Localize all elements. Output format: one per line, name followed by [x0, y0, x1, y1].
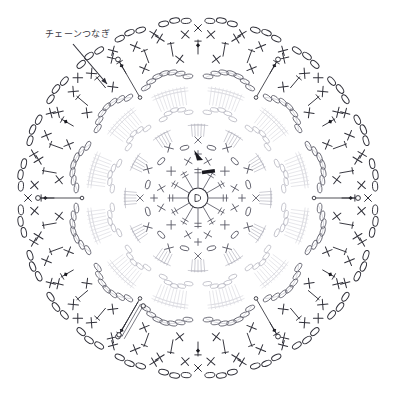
chain-stitch-symbol [206, 144, 216, 151]
chain-stitch-symbol [353, 114, 362, 125]
chain-stitch-symbol [180, 144, 190, 151]
chain-stitch-symbol [17, 216, 23, 227]
single-crochet-symbol [345, 256, 355, 266]
chain-stitch-symbol [244, 124, 254, 133]
chain-stitch-symbol [26, 250, 34, 261]
double-crochet-symbol [124, 195, 136, 201]
chain-stitch-symbol [124, 244, 133, 254]
double-crochet-symbol [308, 291, 320, 302]
double-crochet-symbol [201, 260, 207, 272]
chain-stitch-symbol [372, 181, 378, 191]
chain-stitch-symbol [362, 135, 370, 146]
single-crochet-symbol [143, 165, 152, 174]
chain-stitch-symbol [309, 326, 320, 336]
treble-crochet-symbol [178, 87, 185, 105]
chain-stitch-symbol [359, 261, 368, 272]
double-crochet-symbol [323, 270, 336, 279]
double-crochet-symbol [333, 141, 346, 148]
single-crochet-symbol [184, 231, 192, 239]
treble-crochet-symbol [181, 87, 188, 105]
diagram-canvas: チェーンつなぎ [0, 0, 396, 395]
chain-stitch-symbol [372, 205, 378, 215]
chain-stitch-symbol [163, 279, 173, 286]
chain-stitch-symbol [228, 115, 238, 122]
chain-stitch-symbol [170, 107, 180, 113]
chain-stitch-symbol [359, 124, 368, 135]
treble-crochet-symbol [181, 208, 193, 225]
chain-join-node [80, 196, 84, 200]
chain-stitch-symbol [169, 372, 180, 378]
chain-stitch-symbol [76, 326, 87, 336]
treble-crochet-symbol [195, 209, 201, 228]
treble-crochet-symbol [208, 291, 215, 309]
double-crochet-symbol [141, 49, 148, 62]
single-crochet-symbol [165, 244, 174, 253]
double-crochet-symbol [308, 95, 320, 106]
single-crochet-symbol [64, 247, 73, 256]
single-crochet-symbol [239, 195, 246, 202]
treble-crochet-symbol [208, 181, 225, 193]
double-crochet-symbol [340, 168, 354, 174]
chain-join-node [117, 333, 121, 337]
single-crochet-symbol [231, 204, 239, 212]
chain-stitch-symbol [326, 309, 336, 320]
double-crochet-symbol [195, 260, 201, 272]
single-crochet-symbol [68, 86, 78, 96]
chain-stitch-symbol [114, 353, 125, 362]
chain-join-node [116, 57, 121, 62]
chain-stitch-symbol [217, 107, 227, 113]
chain-stitch-symbol [362, 250, 370, 261]
chain-stitch-symbol [76, 59, 87, 69]
single-crochet-symbol [207, 358, 215, 366]
treble-crochet-symbol [208, 87, 215, 105]
chain-stitch-symbol [124, 28, 135, 37]
treble-crochet-symbol [172, 181, 189, 193]
single-crochet-symbol [157, 204, 165, 212]
chain-stitch-symbol [20, 158, 27, 169]
single-crochet-symbol [184, 157, 192, 165]
single-crochet-symbol [143, 223, 152, 232]
chain-stitch-symbol [273, 158, 280, 168]
chain-stitch-symbol [142, 263, 152, 272]
chain-stitch-symbol [169, 17, 180, 23]
chain-stitch-symbol [46, 291, 56, 302]
single-crochet-symbol [73, 313, 83, 323]
chain-join-node [356, 196, 361, 201]
chain-join-node [138, 297, 142, 301]
chain-stitch-symbol [309, 59, 320, 69]
chain-stitch-symbol [245, 206, 252, 216]
single-crochet-symbol [195, 365, 202, 372]
chain-stitch-symbol [135, 26, 146, 34]
chain-join-node [254, 96, 258, 100]
single-crochet-symbol [25, 195, 32, 202]
treble-crochet-symbol [87, 181, 105, 188]
treble-crochet-symbol [212, 291, 219, 309]
chain-stitch-symbol [20, 227, 27, 238]
start-marker-layer [194, 150, 215, 174]
single-crochet-symbol [278, 82, 288, 92]
single-crochet-symbol [365, 195, 372, 202]
single-crochet-symbol [64, 140, 73, 149]
chain-stitch-symbol [26, 135, 34, 146]
crochet-pattern-diagram [0, 0, 396, 395]
single-crochet-symbol [181, 31, 189, 39]
single-crochet-symbol [176, 333, 184, 341]
single-crochet-symbol [313, 313, 323, 323]
chain-stitch-symbol [34, 114, 43, 125]
chain-stitch-symbol [28, 124, 37, 135]
single-crochet-symbol [317, 299, 327, 309]
highlighted-chain-join [124, 306, 143, 339]
chain-stitch-symbol [279, 223, 286, 233]
chain-stitch-symbol [110, 163, 117, 173]
single-crochet-symbol [256, 42, 266, 52]
chain-stitch-symbol [142, 124, 152, 133]
single-crochet-symbol [68, 299, 78, 309]
chain-stitch-symbol [83, 51, 94, 61]
single-crochet-symbol [253, 195, 259, 201]
treble-crochet-symbol [181, 291, 188, 309]
chain-stitch-symbol [271, 353, 282, 362]
chain-stitch-symbol [94, 340, 105, 350]
double-crochet-symbol [49, 141, 62, 148]
double-crochet-symbol [222, 340, 228, 354]
single-crochet-symbol [323, 140, 332, 149]
